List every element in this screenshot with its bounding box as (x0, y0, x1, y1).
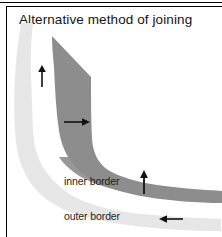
border-bands-drawing (7, 7, 222, 237)
top-rule-divider (0, 2, 222, 3)
inner-border-label: inner border (64, 175, 119, 187)
outer-border-label: outer border (64, 210, 120, 222)
figure-root: Alternative method of joining inner bord… (0, 0, 222, 237)
figure-frame: Alternative method of joining inner bord… (6, 6, 222, 237)
figure-canvas (7, 7, 222, 237)
